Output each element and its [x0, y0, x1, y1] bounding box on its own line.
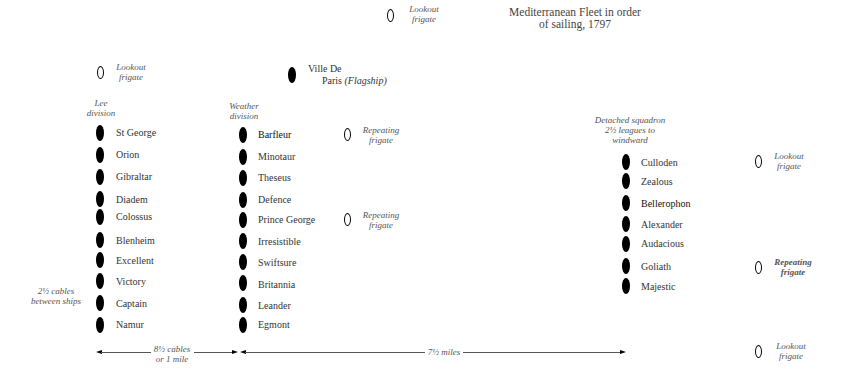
distance-label-miles: 7½ miles	[425, 347, 463, 357]
ship-icon	[622, 173, 630, 189]
distance-label-cables: 8½ cables or 1 mile	[150, 344, 194, 364]
ship-icon	[239, 275, 247, 291]
ship-icon	[96, 125, 104, 141]
label-line: division	[224, 111, 264, 121]
ship-icon	[239, 192, 247, 208]
label-line: frigate	[358, 220, 404, 230]
top-lookout-label: Lookout frigate	[404, 4, 444, 24]
ship-name: Audacious	[641, 238, 684, 250]
weather-division-label: Weather division	[224, 101, 264, 121]
label-line: frigate	[111, 72, 151, 82]
ship-name: Swiftsure	[258, 257, 296, 269]
label-line: windward	[584, 135, 676, 145]
ship-name: Minotaur	[258, 151, 295, 163]
repeating-frigate-label: Repeating frigate	[770, 257, 816, 277]
label-line: Lookout	[404, 4, 444, 14]
title-line-2: of sailing, 1797	[480, 18, 670, 30]
ship-name: Britannia	[258, 279, 295, 291]
frigate-icon-repeating	[344, 128, 351, 141]
ship-icon	[96, 317, 104, 333]
ship-icon	[239, 212, 247, 228]
repeating-frigate-label: Repeating frigate	[358, 125, 404, 145]
ship-name: Captain	[116, 298, 147, 310]
ship-icon	[96, 147, 104, 163]
ship-name: Irresistible	[258, 236, 301, 248]
label-line: Lookout	[111, 62, 151, 72]
flagship-name-line2: Paris (Flagship)	[308, 75, 387, 87]
ship-name: Excellent	[116, 255, 154, 267]
frigate-icon-top-lookout	[387, 9, 394, 22]
lee-lookout-label: Lookout frigate	[111, 62, 151, 82]
ship-name: Barfleur	[258, 129, 291, 141]
ship-icon	[96, 232, 104, 248]
ship-icon	[96, 252, 104, 268]
flagship-name: Paris	[322, 75, 342, 86]
ship-icon	[239, 149, 247, 165]
label-line: Lookout	[768, 151, 810, 161]
label-line: 8½ cables	[150, 344, 194, 354]
lee-division-label: Lee division	[82, 98, 120, 118]
ship-name: Majestic	[641, 281, 675, 293]
label-line: frigate	[358, 135, 404, 145]
ship-name: Namur	[116, 319, 144, 331]
ship-icon	[96, 273, 104, 289]
ship-name: Culloden	[641, 157, 678, 169]
ship-icon	[96, 191, 104, 207]
label-line: frigate	[404, 14, 444, 24]
ship-icon	[239, 317, 247, 333]
label-line: Lee	[82, 98, 120, 108]
ship-icon	[96, 169, 104, 185]
spacing-note: 2½ cables between ships	[26, 286, 86, 306]
ship-name: Theseus	[258, 172, 291, 184]
label-line: Lookout	[770, 341, 812, 351]
ship-icon	[622, 236, 630, 252]
frigate-icon-repeating	[755, 261, 762, 274]
ship-icon-flagship	[288, 67, 296, 83]
label-line: division	[82, 108, 120, 118]
label-line: Repeating	[770, 257, 816, 267]
ship-name: Zealous	[641, 176, 673, 188]
ship-name: St George	[116, 127, 156, 139]
ship-name: Orion	[116, 149, 139, 161]
ship-name: Defence	[258, 194, 291, 206]
ship-icon	[622, 258, 630, 274]
frigate-icon-lee-lookout	[97, 66, 104, 79]
title-line-1: Mediterranean Fleet in order	[480, 6, 670, 18]
ship-name: Colossus	[116, 211, 152, 223]
ship-icon	[96, 295, 104, 311]
distance-line	[245, 352, 425, 353]
ship-icon	[96, 209, 104, 225]
frigate-icon-lookout	[755, 155, 762, 168]
arrow-right-icon	[620, 350, 626, 354]
ship-name: Prince George	[258, 214, 315, 226]
label-line: 2½ cables	[26, 286, 86, 296]
ship-name: Diadem	[116, 194, 148, 206]
distance-line	[194, 352, 232, 353]
detached-squadron-label: Detached squadron 2½ leagues to windward	[584, 115, 676, 145]
label-line: Weather	[224, 101, 264, 111]
ship-icon	[622, 278, 630, 294]
diagram-title: Mediterranean Fleet in order of sailing,…	[480, 6, 670, 30]
repeating-frigate-label: Repeating frigate	[358, 210, 404, 230]
label-line: Detached squadron	[584, 115, 676, 125]
arrow-right-icon	[232, 350, 238, 354]
ship-icon	[239, 127, 247, 143]
ship-icon	[239, 170, 247, 186]
ship-icon	[239, 233, 247, 249]
ship-icon	[622, 195, 630, 211]
ship-name: Bellerophon	[641, 198, 690, 210]
ship-name: Alexander	[641, 219, 683, 231]
label-line: 7½ miles	[425, 347, 463, 357]
flagship-note: (Flagship)	[345, 75, 387, 86]
label-line: or 1 mile	[150, 354, 194, 364]
ship-icon	[622, 154, 630, 170]
ship-icon	[239, 297, 247, 313]
frigate-icon-repeating	[344, 213, 351, 226]
lookout-frigate-label: Lookout frigate	[768, 151, 810, 171]
label-line: frigate	[770, 351, 812, 361]
label-line: Repeating	[358, 210, 404, 220]
ship-name: Goliath	[641, 261, 671, 273]
lookout-frigate-label: Lookout frigate	[770, 341, 812, 361]
label-line: frigate	[770, 267, 816, 277]
ship-name: Blenheim	[116, 235, 155, 247]
